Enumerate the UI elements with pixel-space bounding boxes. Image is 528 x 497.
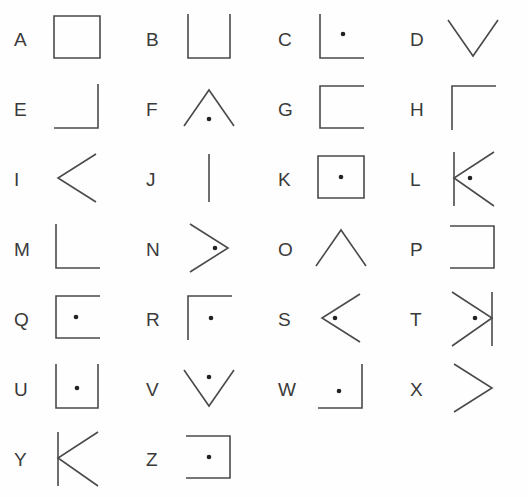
glyph-shape-chevron-up-icon: [178, 78, 240, 140]
glyph-letter-label: X: [410, 380, 423, 399]
glyph-letter-label: J: [146, 170, 156, 189]
glyph-cell: O: [264, 214, 396, 284]
glyph-shape-bracket-open-left-icon: [442, 218, 504, 280]
glyph-shape-corner-bottom-right-icon: [310, 358, 372, 420]
glyph-cell: S: [264, 284, 396, 354]
glyph-letter-label: Z: [146, 450, 158, 469]
glyph-letter-label: N: [146, 240, 160, 259]
glyph-cell: D: [396, 4, 528, 74]
glyph-cell: U: [0, 354, 132, 424]
glyph-shape-chevron-down-icon: [178, 358, 240, 420]
glyph-letter-label: Y: [14, 450, 27, 469]
glyph-letter-label: M: [14, 240, 30, 259]
glyph-letter-label: D: [410, 30, 424, 49]
glyph-shape-chevron-left-icon: [46, 148, 108, 210]
glyph-letter-label: V: [146, 380, 159, 399]
glyph-cell: F: [132, 74, 264, 144]
glyph-letter-label: A: [14, 30, 27, 49]
glyph-letter-label: F: [146, 100, 158, 119]
glyph-letter-label: W: [278, 380, 296, 399]
glyph-shape-chevron-down-icon: [442, 8, 504, 70]
glyph-letter-label: O: [278, 240, 293, 259]
glyph-shape-bar-chevron-left-icon: [442, 148, 504, 210]
glyph-cell: B: [132, 4, 264, 74]
shape-alphabet-figure: ABCDEFGHIJKLMNOPQRSTUVWXYZ: [0, 0, 528, 497]
glyph-shape-chevron-right-icon: [178, 218, 240, 280]
glyph-shape-bar-chevron-left-icon: [46, 428, 108, 490]
glyph-letter-label: C: [278, 30, 292, 49]
glyph-cell: G: [264, 74, 396, 144]
glyph-shape-chevron-right-icon: [442, 358, 504, 420]
glyph-cell: R: [132, 284, 264, 354]
glyph-cell: N: [132, 214, 264, 284]
glyph-cell: W: [264, 354, 396, 424]
glyph-cell: Y: [0, 424, 132, 494]
glyph-cell: K: [264, 144, 396, 214]
glyph-cell: E: [0, 74, 132, 144]
glyph-cell: C: [264, 4, 396, 74]
glyph-letter-label: S: [278, 310, 291, 329]
glyph-shape-bracket-open-left-icon: [178, 428, 240, 490]
glyph-shape-vertical-line-icon: [178, 148, 240, 210]
glyph-cell: V: [132, 354, 264, 424]
glyph-letter-label: K: [278, 170, 291, 189]
glyph-cell: X: [396, 354, 528, 424]
glyph-cell: P: [396, 214, 528, 284]
glyph-shape-bracket-open-right-icon: [46, 288, 108, 350]
glyph-letter-label: T: [410, 310, 422, 329]
glyph-cell: H: [396, 74, 528, 144]
glyph-cell: Q: [0, 284, 132, 354]
glyph-shape-u-open-top-icon: [178, 8, 240, 70]
glyph-letter-label: B: [146, 30, 159, 49]
glyph-cell: T: [396, 284, 528, 354]
glyph-shape-chevron-up-icon: [310, 218, 372, 280]
glyph-letter-label: I: [14, 170, 20, 189]
glyph-cell: A: [0, 4, 132, 74]
glyph-cell: L: [396, 144, 528, 214]
glyph-shape-chevron-left-icon: [310, 288, 372, 350]
glyph-letter-label: Q: [14, 310, 29, 329]
glyph-letter-label: R: [146, 310, 160, 329]
glyph-letter-label: E: [14, 100, 27, 119]
glyph-letter-label: P: [410, 240, 423, 259]
glyph-shape-square-icon: [310, 148, 372, 210]
glyph-shape-bracket-open-right-icon: [310, 78, 372, 140]
glyph-letter-label: L: [410, 170, 421, 189]
glyph-cell: M: [0, 214, 132, 284]
glyph-shape-bar-chevron-right-icon: [442, 288, 504, 350]
glyph-cell: Z: [132, 424, 264, 494]
glyph-cell: J: [132, 144, 264, 214]
glyph-shape-corner-top-left-icon: [178, 288, 240, 350]
glyph-letter-label: H: [410, 100, 424, 119]
glyph-letter-label: U: [14, 380, 28, 399]
glyph-shape-square-icon: [46, 8, 108, 70]
glyph-shape-corner-bottom-right-icon: [46, 78, 108, 140]
glyph-shape-corner-bottom-left-icon: [46, 218, 108, 280]
glyph-cell: I: [0, 144, 132, 214]
glyph-shape-u-open-top-icon: [46, 358, 108, 420]
glyph-letter-label: G: [278, 100, 293, 119]
glyph-shape-corner-bottom-left-icon: [310, 8, 372, 70]
glyph-shape-corner-top-left-icon: [442, 78, 504, 140]
